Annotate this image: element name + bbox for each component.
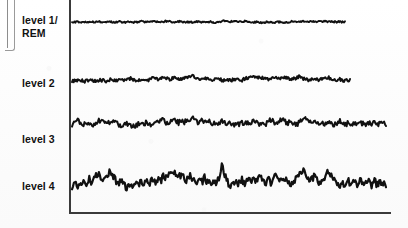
trace-level-2 bbox=[72, 75, 350, 83]
trace-level-4 bbox=[72, 163, 386, 190]
figure-root: level 1/ REM level 2 level 3 level 4 bbox=[0, 0, 408, 228]
trace-level-3 bbox=[72, 116, 386, 127]
trace-group bbox=[72, 20, 386, 190]
trace-level-1-rem bbox=[72, 20, 345, 23]
plot-area bbox=[0, 0, 408, 228]
